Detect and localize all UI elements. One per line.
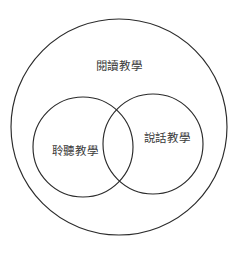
venn-diagram: 閱讀教學 聆聽教學 說話教學 — [0, 0, 242, 254]
label-listening: 聆聽教學 — [52, 144, 98, 158]
label-speaking: 說話教學 — [144, 131, 190, 145]
label-reading: 閱讀教學 — [96, 59, 142, 73]
venn-diagram-canvas: 閱讀教學 聆聽教學 說話教學 — [0, 0, 242, 254]
outer-circle-reading — [11, 19, 227, 235]
